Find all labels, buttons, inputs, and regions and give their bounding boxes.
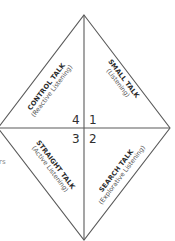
quadrant-small-talk: SMALL TALK (Listening) bbox=[101, 58, 142, 105]
search-talk-subtitle: (Explorative Listening) bbox=[97, 144, 147, 206]
cropped-edge-text: rs bbox=[0, 158, 6, 166]
quadrant-number-3: 3 bbox=[72, 132, 80, 146]
quadrant-number-2: 2 bbox=[89, 132, 97, 146]
quadrant-number-4: 4 bbox=[72, 113, 80, 127]
quadrant-straight-talk: STRAIGHT TALK (Active Listening) bbox=[29, 139, 77, 196]
quadrant-search-talk: SEARCH TALK (Explorative Listening) bbox=[91, 140, 147, 206]
quadrant-control-talk: CONTROL TALK (Reactive Listening) bbox=[24, 59, 74, 119]
talk-diamond-diagram: 4 1 3 2 CONTROL TALK (Reactive Listening… bbox=[0, 0, 175, 241]
quadrant-number-1: 1 bbox=[89, 113, 97, 127]
